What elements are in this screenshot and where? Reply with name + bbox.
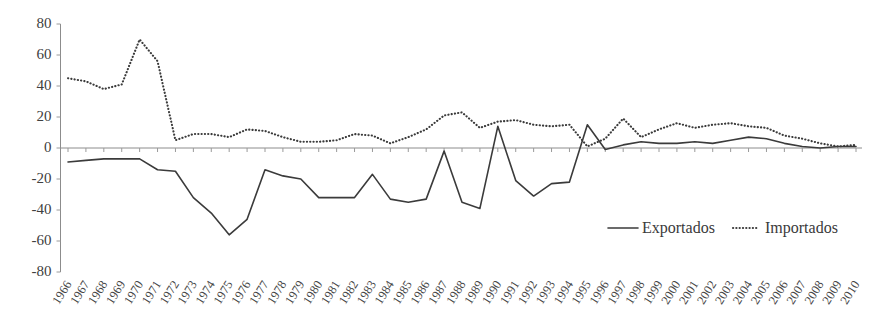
y-tick-label: 20 xyxy=(37,108,52,124)
plot-area xyxy=(68,40,856,235)
y-axis: 806040200-20-40-60-80 xyxy=(32,15,61,279)
y-tick-label: 40 xyxy=(37,77,52,93)
y-tick-label: -40 xyxy=(32,201,52,217)
legend-label-importados: Importados xyxy=(765,219,838,237)
legend-label-exportados: Exportados xyxy=(642,219,715,237)
y-tick-label: 80 xyxy=(37,15,52,31)
y-tick-label: -80 xyxy=(32,263,52,279)
y-tick-label: 60 xyxy=(37,46,52,62)
series-line-exportados xyxy=(68,125,856,235)
x-tick-label: 2010 xyxy=(837,278,862,307)
series-line-importados xyxy=(68,40,856,147)
y-tick-label: -60 xyxy=(32,232,52,248)
chart-container: 806040200-20-40-60-80 196619671968196919… xyxy=(0,0,873,323)
legend: ExportadosImportados xyxy=(608,219,838,237)
line-chart: 806040200-20-40-60-80 196619671968196919… xyxy=(0,0,873,323)
y-tick-label: 0 xyxy=(44,139,52,155)
y-tick-label: -20 xyxy=(32,170,52,186)
